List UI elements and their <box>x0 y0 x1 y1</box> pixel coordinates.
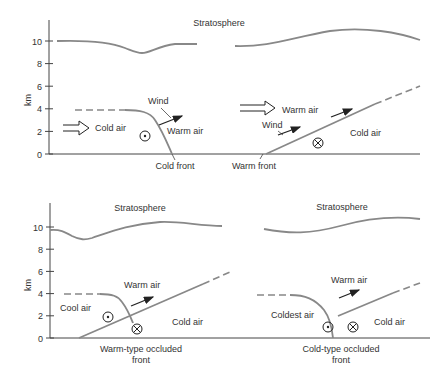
cold-front-leader <box>172 154 175 160</box>
into-page-icon <box>132 324 142 334</box>
top-y-ticks: 0 2 4 6 8 10 <box>32 37 53 160</box>
tropopause-bottom-left <box>50 222 222 239</box>
bottom-y-ticks: 0 2 4 6 8 10 <box>33 223 54 344</box>
fronts-diagram: 0 2 4 6 8 10 km Stratosphere Cold air Wi… <box>0 0 443 382</box>
cold-air-label-right: Cold air <box>350 128 381 138</box>
tick-2: 2 <box>38 311 43 321</box>
tick-2: 2 <box>37 127 42 137</box>
tick-10: 10 <box>32 37 42 47</box>
tick-0: 0 <box>38 334 43 344</box>
cold-front-label: Cold front <box>155 161 195 171</box>
warm-front-label: Warm front <box>232 161 277 171</box>
warm-front-leader <box>260 154 263 159</box>
wind-leader-left <box>161 108 171 118</box>
warm-type-caption-2: front <box>132 355 151 365</box>
y-axis-label: km <box>23 94 33 106</box>
cold-occ-warm-boundary <box>338 293 393 316</box>
bottom-panel: 0 2 4 6 8 10 km Stratosphere Stratospher… <box>23 202 430 365</box>
cold-air-label-left: Cold air <box>172 317 203 327</box>
out-of-page-icon <box>103 312 113 322</box>
tick-4: 4 <box>37 104 42 114</box>
warm-front-dashed-top <box>375 86 420 104</box>
warm-air-flow-arrow <box>240 101 275 115</box>
top-panel: 0 2 4 6 8 10 km Stratosphere Cold air Wi… <box>23 18 420 171</box>
warm-occ-dashed-slope <box>203 272 230 284</box>
tick-6: 6 <box>38 267 43 277</box>
tropopause-left <box>57 41 197 53</box>
warm-air-label-right: Warm air <box>331 275 367 285</box>
warm-air-label-left: Warm air <box>124 280 160 290</box>
tick-0: 0 <box>37 150 42 160</box>
warm-air-label-left: Warm air <box>167 126 203 136</box>
tick-8: 8 <box>37 59 42 69</box>
warm-occ-warm-boundary <box>79 284 203 338</box>
out-of-page-icon <box>140 131 150 141</box>
y-axis-label: km <box>23 279 33 291</box>
tropopause-right <box>235 29 420 46</box>
wind-arrow-bottom-left <box>131 297 153 306</box>
into-page-icon <box>348 322 358 332</box>
stratosphere-label-right: Stratosphere <box>316 202 368 212</box>
warm-occ-cool-boundary <box>100 294 133 323</box>
tick-6: 6 <box>37 82 42 92</box>
wind-label-left: Wind <box>148 96 169 106</box>
coldest-air-label: Coldest air <box>271 310 314 320</box>
stratosphere-label-left: Stratosphere <box>114 203 166 213</box>
cold-type-caption-2: front <box>332 355 351 365</box>
into-page-icon <box>313 138 323 148</box>
stratosphere-label: Stratosphere <box>193 18 245 28</box>
tick-8: 8 <box>38 245 43 255</box>
tick-10: 10 <box>33 223 43 233</box>
cold-air-flow-arrow <box>63 121 89 135</box>
wind-label-right: Wind <box>262 120 283 130</box>
wind-arrow-bottom-right <box>339 290 359 298</box>
warm-type-caption-1: Warm-type occluded <box>100 344 182 354</box>
cold-occ-dashed-slope <box>393 283 420 293</box>
tick-4: 4 <box>38 289 43 299</box>
cold-air-label: Cold air <box>95 123 126 133</box>
tropopause-bottom-right <box>264 218 420 233</box>
warm-air-label-right: Warm air <box>282 105 318 115</box>
cool-air-label: Cool air <box>60 303 91 313</box>
cold-air-label-right: Cold air <box>374 317 405 327</box>
cold-type-caption-1: Cold-type occluded <box>302 344 379 354</box>
